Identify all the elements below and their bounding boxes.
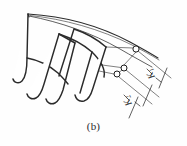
- arrowhead-k2-end: [135, 102, 140, 106]
- extension-line-low: [99, 71, 114, 74]
- hub-fillet-right: [102, 65, 104, 77]
- node-connector-a: [124, 52, 136, 65]
- extension-line-top: [106, 47, 133, 48]
- blade-2: [27, 34, 59, 99]
- figure-caption: (b): [0, 120, 187, 132]
- extension-line-mid: [102, 65, 121, 68]
- dimension-label-k2: K 2: [120, 94, 135, 109]
- dim-tick-upper: [159, 68, 167, 88]
- blade-1: [13, 14, 28, 83]
- figure-container: K 1 K 2 (b): [0, 0, 187, 146]
- node-mid-circle: [121, 65, 127, 71]
- arrowhead-k1-end: [156, 78, 161, 82]
- node-bottom-circle: [114, 71, 120, 77]
- node-top-circle: [133, 46, 139, 52]
- node-markers: [114, 46, 139, 77]
- dimension-label-k1: K 1: [143, 67, 158, 82]
- blade-group: [13, 14, 106, 104]
- dimension-lines: [119, 51, 171, 118]
